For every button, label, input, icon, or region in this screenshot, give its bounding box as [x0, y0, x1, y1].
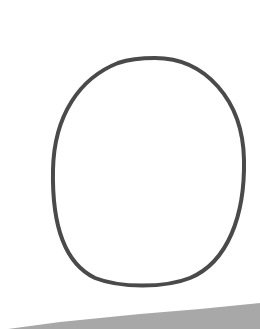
paper-background	[0, 0, 260, 329]
drawing-canvas	[0, 0, 260, 329]
